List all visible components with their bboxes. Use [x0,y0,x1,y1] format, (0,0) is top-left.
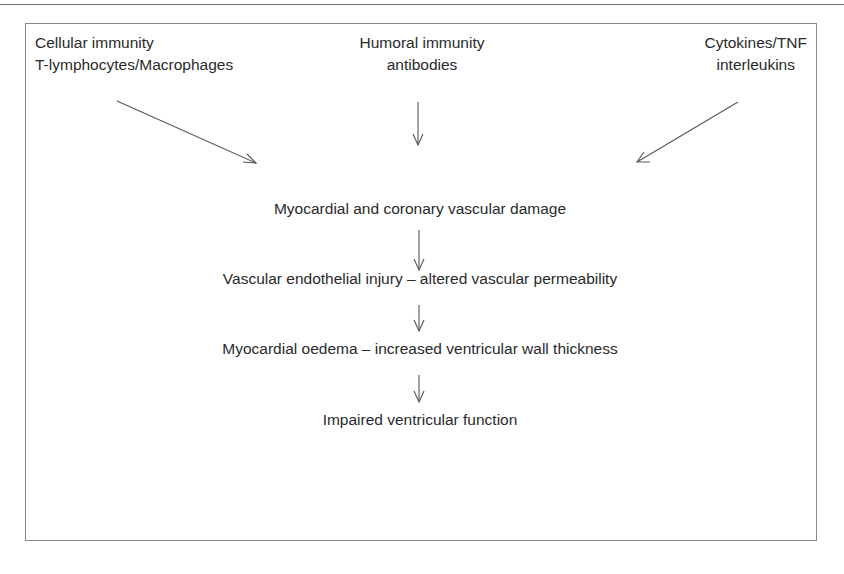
arrow-chain-2-icon [414,305,424,331]
arrows-layer [0,0,844,574]
arrow-cytokines-to-damage-icon [637,102,738,162]
arrow-chain-1-icon [414,230,424,270]
arrow-cellular-to-damage-icon [117,101,256,163]
arrow-humoral-to-damage-icon [413,102,423,145]
arrow-chain-3-icon [414,375,424,402]
